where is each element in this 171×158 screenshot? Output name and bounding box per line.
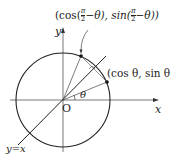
- diagram-graphic: [0, 0, 171, 158]
- line-y-equals-x: [18, 56, 106, 145]
- x-axis-arrow-icon: [153, 98, 159, 102]
- pointer-arrowhead-icon: [80, 50, 83, 55]
- unit-circle-diagram: (cos(π2−θ), sin(π2−θ)) (cos θ, sin θ) y …: [0, 0, 171, 158]
- label-y-axis: y: [55, 26, 61, 37]
- chord: [81, 56, 107, 82]
- label-right-point: (cos θ, sin θ): [107, 68, 171, 79]
- point-complement: [79, 54, 83, 58]
- point-cos-sin-theta: [105, 80, 109, 84]
- angle-arc: [74, 95, 75, 100]
- y-axis-arrow-icon: [61, 27, 65, 33]
- label-theta: θ: [80, 90, 86, 100]
- label-origin: O: [62, 103, 71, 114]
- label-line-y-equals-x: y=x: [6, 144, 26, 154]
- label-top-point: (cos(π2−θ), sin(π2−θ)): [55, 8, 159, 23]
- pointer-arrow: [81, 30, 88, 51]
- label-x-axis: x: [155, 104, 161, 115]
